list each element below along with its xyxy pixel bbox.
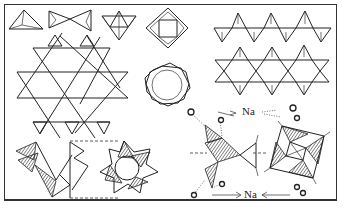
oxygen-atom-icon bbox=[295, 116, 300, 121]
sheet-structure-icon bbox=[17, 33, 128, 138]
sodalite-side-icon bbox=[190, 114, 266, 194]
na-label-bottom: Na bbox=[244, 189, 257, 200]
single-chain-icon bbox=[214, 11, 331, 42]
diagram-canvas bbox=[0, 0, 343, 208]
six-ring-icon bbox=[145, 63, 190, 106]
double-chain-icon bbox=[215, 45, 329, 95]
single-tetrahedron-icon bbox=[9, 10, 43, 29]
oxygen-atom-icon bbox=[188, 109, 194, 115]
oxygen-atom-icon bbox=[219, 118, 224, 123]
sodalite-top-icon bbox=[264, 121, 330, 184]
oxygen-atom-icon bbox=[301, 191, 306, 196]
oxygen-atom-icon bbox=[295, 185, 300, 190]
oxygen-atom-icon bbox=[192, 193, 197, 198]
framework-star-icon bbox=[100, 141, 158, 193]
three-ring-icon bbox=[102, 11, 136, 40]
double-tetrahedron-icon bbox=[49, 10, 91, 31]
framework-side-icon bbox=[16, 141, 118, 198]
na-label-top: Na bbox=[242, 106, 255, 117]
four-ring-icon bbox=[146, 8, 188, 48]
oxygen-atom-icon bbox=[290, 105, 296, 111]
oxygen-atom-icon bbox=[220, 182, 225, 187]
